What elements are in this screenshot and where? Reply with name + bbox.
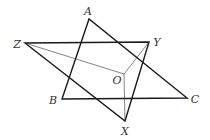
label-y: Y [153, 37, 160, 48]
label-x: X [121, 126, 129, 137]
label-o: O [112, 75, 121, 86]
segment-oy [124, 42, 149, 74]
label-z: Z [13, 39, 21, 50]
label-a: A [84, 6, 92, 17]
segment-oz [25, 43, 124, 74]
triangle-xyz [25, 42, 149, 121]
diagram-svg [0, 0, 210, 140]
geometry-diagram: A B C X Y Z O [0, 0, 210, 140]
label-c: C [191, 94, 199, 105]
label-b: B [49, 95, 57, 106]
segment-ox [124, 74, 125, 121]
